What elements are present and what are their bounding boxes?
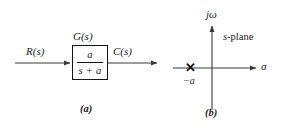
transfer-function-denominator: s + a <box>76 64 103 78</box>
transfer-function-fraction: a s + a <box>76 48 103 77</box>
s-plane-annotation: s-plane <box>223 32 253 43</box>
imaginary-axis-label: jω <box>206 9 217 20</box>
pole-marker-icon: ✕ <box>185 61 196 74</box>
panel-b-caption: (b) <box>205 108 217 119</box>
output-signal-label: C(s) <box>113 46 132 57</box>
input-signal-label: R(s) <box>26 46 44 57</box>
transfer-function-block: a s + a <box>72 45 108 80</box>
pole-label: −a <box>183 76 195 86</box>
panel-b-s-plane: jω σ s-plane ✕ −a (b) <box>160 0 287 134</box>
s-plane-axes <box>160 0 287 134</box>
panel-a-block-diagram: R(s) G(s) C(s) a s + a (a) <box>0 0 160 134</box>
panel-a-caption: (a) <box>80 104 92 115</box>
real-axis-label: σ <box>261 61 266 72</box>
transfer-function-numerator: a <box>84 48 95 62</box>
block-label: G(s) <box>73 31 93 42</box>
s-plane-annotation-rest: -plane <box>227 31 253 42</box>
figure-container: R(s) G(s) C(s) a s + a (a) <box>0 0 287 134</box>
